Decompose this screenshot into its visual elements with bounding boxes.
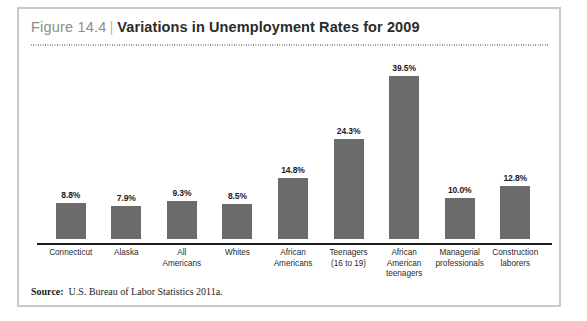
bar-value-label: 8.5% [228,191,247,201]
x-axis-label: Connecticut [40,248,102,280]
bar-column: 14.8% [265,57,321,239]
bar-value-label: 14.8% [281,165,305,175]
x-axis-labels: ConnecticutAlaskaAllAmericansWhitesAfric… [43,248,543,280]
bar-column: 12.8% [488,57,544,239]
x-axis-line [37,243,552,245]
bar-column: 39.5% [376,57,432,239]
bar-value-label: 39.5% [392,63,416,73]
bar-column: 10.0% [432,57,488,239]
x-axis-label-line: Americans [262,259,324,270]
x-axis-label: Teenagers(16 to 19) [318,248,380,280]
x-axis-label-line: African [373,248,435,259]
x-axis-label: Alaska [95,248,157,280]
x-axis-label-line: All [151,248,213,259]
bar-value-label: 8.8% [61,190,80,200]
source-text: U.S. Bureau of Labor Statistics 2011a. [64,286,223,297]
figure-title: Variations in Unemployment Rates for 200… [117,19,419,35]
source-label: Source: [31,286,64,297]
bar-column: 24.3% [321,57,377,239]
bar [167,201,197,239]
x-axis-label: AllAmericans [151,248,213,280]
figure-number: Figure 14.4 [31,19,107,35]
x-axis-label-line: (16 to 19) [318,259,380,270]
bar [334,139,364,240]
bar [278,178,308,239]
bar [56,203,86,239]
x-axis-label-line: Managerial [429,248,491,259]
x-axis-label: Whites [206,248,268,280]
figure-title-separator: | [107,19,118,35]
bar-column: 9.3% [154,57,210,239]
x-axis-label: AfricanAmericans [262,248,324,280]
bar-value-label: 24.3% [337,126,361,136]
bar-value-label: 9.3% [172,188,191,198]
x-axis-label-line: Whites [206,248,268,259]
bar-column: 8.5% [210,57,266,239]
x-axis-label-line: Alaska [95,248,157,259]
header-divider [30,44,548,46]
x-axis-label-line: Americans [151,259,213,270]
x-axis-label: Managerialprofessionals [429,248,491,280]
bar [222,204,252,239]
figure-frame: Figure 14.4|Variations in Unemployment R… [17,7,561,307]
x-axis-label-line: American [373,259,435,270]
bar-series: 8.8%7.9%9.3%8.5%14.8%24.3%39.5%10.0%12.8… [43,57,543,239]
x-axis-label: Constructionlaborers [484,248,546,280]
figure-header: Figure 14.4|Variations in Unemployment R… [31,18,420,36]
bar-value-label: 12.8% [503,173,527,183]
bar [389,76,419,239]
bar-column: 8.8% [43,57,99,239]
x-axis-label-line: Connecticut [40,248,102,259]
bar-value-label: 10.0% [448,185,472,195]
x-axis-label: AfricanAmericanteenagers [373,248,435,280]
bar-value-label: 7.9% [117,193,136,203]
x-axis-label-line: Construction [484,248,546,259]
bar [445,198,475,239]
source-note: Source:U.S. Bureau of Labor Statistics 2… [31,286,223,297]
bar [500,186,530,239]
bar-column: 7.9% [99,57,155,239]
x-axis-label-line: professionals [429,259,491,270]
x-axis-label-line: teenagers [373,269,435,280]
bar [111,206,141,239]
x-axis-label-line: Teenagers [318,248,380,259]
x-axis-label-line: African [262,248,324,259]
chart-plot-area: 8.8%7.9%9.3%8.5%14.8%24.3%39.5%10.0%12.8… [43,57,543,239]
x-axis-label-line: laborers [484,259,546,270]
